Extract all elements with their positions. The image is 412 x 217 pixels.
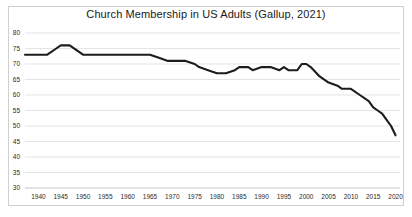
x-tick-label: 1965 xyxy=(143,193,158,200)
x-tick-label: 1960 xyxy=(120,193,135,200)
x-tick-label: 1940 xyxy=(31,193,46,200)
y-tick-label: 50 xyxy=(13,122,21,129)
x-tick-label: 1955 xyxy=(98,193,113,200)
chart-screenshot: Church Membership in US Adults (Gallup, … xyxy=(0,0,412,217)
x-tick-label: 1970 xyxy=(165,193,180,200)
y-tick-label: 35 xyxy=(13,169,21,176)
y-tick-label: 60 xyxy=(13,91,21,98)
y-tick-label: 65 xyxy=(13,76,21,83)
y-axis-tick-labels: 3035404550556065707580 xyxy=(13,29,21,191)
line-chart-plot: 3035404550556065707580 19401945195019551… xyxy=(0,0,412,217)
y-tick-label: 55 xyxy=(13,107,21,114)
x-tick-label: 1990 xyxy=(254,193,269,200)
x-tick-label: 1995 xyxy=(277,193,292,200)
x-tick-label: 2020 xyxy=(388,193,403,200)
data-line-series-0 xyxy=(25,45,396,135)
x-tick-label: 2015 xyxy=(366,193,381,200)
x-tick-label: 2005 xyxy=(321,193,336,200)
y-tick-label: 70 xyxy=(13,60,21,67)
x-tick-label: 1975 xyxy=(187,193,202,200)
x-axis-tick-labels: 1940194519501955196019651970197519801985… xyxy=(31,193,403,200)
x-tick-label: 2010 xyxy=(344,193,359,200)
x-tick-label: 1980 xyxy=(210,193,225,200)
y-tick-label: 80 xyxy=(13,29,21,36)
y-tick-label: 30 xyxy=(13,184,21,191)
x-tick-label: 2000 xyxy=(299,193,314,200)
x-tick-label: 1945 xyxy=(53,193,68,200)
y-tick-label: 45 xyxy=(13,138,21,145)
y-tick-label: 40 xyxy=(13,153,21,160)
x-tick-label: 1985 xyxy=(232,193,247,200)
y-tick-label: 75 xyxy=(13,45,21,52)
data-series-group xyxy=(25,45,396,135)
x-tick-label: 1950 xyxy=(76,193,91,200)
gridlines-group xyxy=(25,33,400,188)
